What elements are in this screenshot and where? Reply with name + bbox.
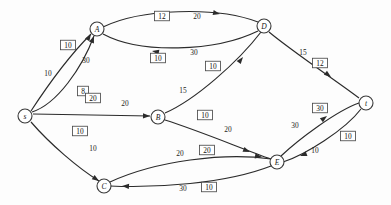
edge-capacity-label: 15: [179, 86, 187, 95]
graph-node-D[interactable]: D: [257, 19, 271, 33]
edge-flow-value: 10: [205, 183, 213, 192]
node-label: B: [156, 113, 161, 122]
edge-label-group-s-B: 2020: [86, 93, 130, 107]
node-label: s: [24, 112, 27, 121]
edge-label-group-B-D: 1510: [179, 61, 220, 94]
node-label: D: [260, 22, 267, 31]
graph-node-s[interactable]: s: [18, 109, 32, 123]
edge-label-group-D-A: 3010: [151, 48, 199, 63]
edge-path: [110, 166, 271, 186]
edge-s-to-B: [33, 113, 150, 118]
edge-label-group-s-A: 1010: [44, 40, 75, 77]
edge-capacity-label: 20: [224, 125, 232, 134]
edge-E-to-C: [110, 166, 271, 189]
edge-s-to-C: [31, 122, 100, 183]
edge-label-group-s-A: 308: [78, 56, 91, 96]
edge-C-to-E: [110, 153, 271, 182]
edge-A-to-D: [103, 10, 258, 27]
edge-label-group-A-D: 2012: [155, 11, 202, 21]
edge-flow-value: 10: [64, 41, 72, 50]
edge-capacity-label: 30: [82, 56, 90, 65]
edge-label-group-E-C: 3010: [179, 182, 216, 192]
edge-flow-value: 12: [316, 59, 324, 68]
edge-capacity-label: 30: [179, 184, 187, 193]
graph-node-t[interactable]: t: [359, 96, 373, 110]
graph-node-A[interactable]: A: [90, 22, 104, 36]
edge-flow-value: 10: [344, 132, 352, 141]
edges-layer: [31, 10, 361, 189]
edge-capacity-label: 30: [190, 48, 198, 57]
arrow-head-icon: [122, 183, 129, 189]
edge-path: [103, 31, 258, 48]
edge-capacity-label: 15: [299, 48, 307, 57]
edge-capacity-label: 30: [291, 121, 299, 130]
edge-B-to-D: [165, 32, 261, 113]
edge-flow-value: 12: [158, 12, 166, 21]
graph-canvas: sABCDEt 10103082020101020123010151020101…: [0, 0, 391, 205]
node-label: A: [94, 25, 100, 34]
graph-node-C[interactable]: C: [97, 179, 111, 193]
edge-flow-value: 10: [201, 111, 209, 120]
graph-node-B[interactable]: B: [151, 110, 165, 124]
edge-path: [110, 157, 271, 182]
edge-label-group-C-E: 2020: [176, 145, 214, 157]
edge-capacity-label: 20: [176, 149, 184, 158]
edge-capacity-label: 20: [121, 99, 129, 108]
edge-flow-value: 30: [316, 104, 324, 113]
arrow-head-icon: [320, 114, 329, 122]
edge-flow-value: 8: [81, 87, 85, 96]
edge-flow-value: 10: [209, 62, 217, 71]
network-flow-diagram: sABCDEt 10103082020101020123010151020101…: [0, 0, 391, 205]
edge-flow-value: 10: [76, 127, 84, 136]
edge-flow-value: 20: [203, 146, 211, 155]
arrow-head-icon: [237, 55, 245, 64]
edge-flow-value: 10: [154, 54, 162, 63]
edge-capacity-label: 10: [311, 146, 319, 155]
edge-path: [103, 12, 258, 27]
edge-label-group-B-E: 2010: [198, 110, 233, 133]
node-label: E: [274, 158, 280, 167]
edge-D-to-A: [103, 31, 258, 55]
edge-labels-layer: 1010308202010102012301015102010151220203…: [44, 11, 355, 192]
edge-path: [165, 32, 261, 113]
edge-label-group-s-C: 1010: [73, 126, 98, 152]
edge-capacity-label: 10: [44, 69, 52, 78]
edge-path: [33, 114, 150, 116]
arrow-head-icon: [143, 113, 150, 118]
edge-capacity-label: 20: [193, 12, 201, 21]
edge-label-group-E-t: 3030: [291, 103, 327, 129]
edge-capacity-label: 10: [89, 144, 97, 153]
edge-flow-value: 20: [89, 94, 97, 103]
graph-node-E[interactable]: E: [270, 155, 284, 169]
